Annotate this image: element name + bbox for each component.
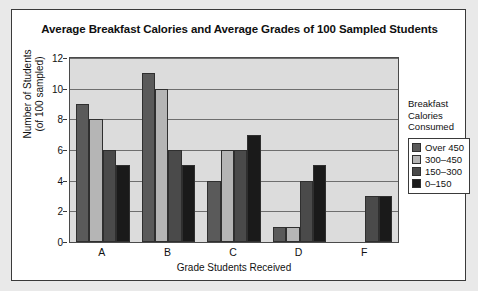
y-axis-tickmark — [63, 181, 67, 182]
bar-B-300-450 — [155, 89, 168, 242]
y-axis-tick-label: 12 — [52, 53, 63, 64]
x-axis-title: Grade Students Received — [69, 262, 399, 273]
legend-title-line: Calories — [408, 110, 468, 122]
bar-B-over-450 — [142, 73, 155, 242]
y-axis-tickmark — [63, 89, 67, 90]
x-axis-tick-label-C: C — [229, 246, 237, 258]
chart-page: Average Breakfast Calories and Average G… — [0, 0, 478, 291]
bar-C-over-450 — [207, 181, 220, 242]
bar-D-150-300 — [300, 181, 313, 242]
legend-item-label: 150–300 — [425, 166, 462, 177]
y-axis-title-line2: (of 100 sampled) — [34, 24, 46, 164]
y-axis-title-line1: Number of Students — [22, 24, 34, 164]
y-axis-tickmark — [63, 58, 67, 59]
y-axis-tickmark — [63, 150, 67, 151]
legend-swatch-icon — [412, 179, 421, 188]
legend-item-over-450[interactable]: Over 450 — [412, 142, 466, 154]
x-axis-tick-label-F: F — [361, 246, 367, 258]
bar-B-0-150 — [182, 165, 195, 242]
x-axis-tick-label-B: B — [164, 246, 171, 258]
legend-title: BreakfastCaloriesConsumed — [408, 98, 468, 133]
x-axis-tick-label-A: A — [98, 246, 105, 258]
chart-card: Average Breakfast Calories and Average G… — [11, 9, 466, 281]
plot-area — [69, 57, 399, 243]
y-axis-title: Number of Students (of 100 sampled) — [22, 24, 46, 164]
legend-entries: Over 450300–450150–3000–150 — [408, 138, 470, 194]
bar-D-0-150 — [313, 165, 326, 242]
legend-item-150-300[interactable]: 150–300 — [412, 166, 466, 178]
bar-C-0-150 — [247, 135, 260, 242]
bar-C-150-300 — [234, 150, 247, 242]
bar-A-300-450 — [89, 119, 102, 242]
bar-D-over-450 — [273, 227, 286, 242]
x-axis-tick-label-D: D — [295, 246, 303, 258]
y-axis-tickmark — [63, 211, 67, 212]
bar-F-150-300 — [365, 196, 378, 242]
bar-F-0-150 — [379, 196, 392, 242]
bar-A-over-450 — [76, 104, 89, 242]
legend-item-label: 300–450 — [425, 154, 462, 165]
chart-title: Average Breakfast Calories and Average G… — [12, 23, 467, 35]
legend-title-line: Breakfast — [408, 98, 468, 110]
legend-item-label: Over 450 — [425, 142, 464, 153]
bar-series-container — [70, 58, 398, 242]
bar-C-300-450 — [221, 150, 234, 242]
legend-swatch-icon — [412, 143, 421, 152]
bar-A-0-150 — [116, 165, 129, 242]
legend-item-300-450[interactable]: 300–450 — [412, 154, 466, 166]
y-axis-tickmark — [63, 119, 67, 120]
bar-B-150-300 — [168, 150, 181, 242]
y-axis-tickmark — [63, 242, 67, 243]
legend-item-label: 0–150 — [425, 178, 451, 189]
legend-item-0-150[interactable]: 0–150 — [412, 178, 466, 190]
bar-D-300-450 — [286, 227, 299, 242]
bar-A-150-300 — [103, 150, 116, 242]
x-axis-tick-labels: ABCDF — [69, 246, 399, 260]
legend-title-line: Consumed — [408, 121, 468, 133]
legend-swatch-icon — [412, 155, 421, 164]
legend-swatch-icon — [412, 167, 421, 176]
y-axis-tick-label: 10 — [52, 83, 63, 94]
legend: BreakfastCaloriesConsumed Over 450300–45… — [408, 98, 468, 194]
